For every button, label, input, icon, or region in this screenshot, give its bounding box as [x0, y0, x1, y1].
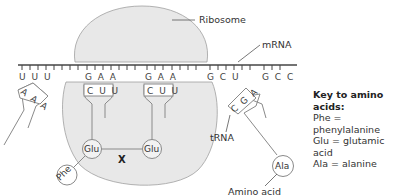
key-entry: Glu = glutamic acid	[313, 135, 407, 158]
mrna-codon: G A A	[85, 72, 118, 82]
ribosome-large-subunit	[74, 6, 207, 62]
mrna-codon: G C C	[262, 72, 295, 82]
trna-anticodon: C U U	[87, 86, 120, 96]
trna-pointer-line	[226, 115, 230, 132]
key-entry: Phe = phenylalanine	[313, 112, 407, 135]
key-entry: Ala = alanine	[313, 158, 407, 170]
amino-acid-label: Ala	[275, 161, 289, 171]
amino-acid-label: Glu	[144, 144, 159, 154]
trna-anticodon: C U U	[147, 86, 180, 96]
mrna-label: mRNA	[262, 39, 292, 50]
amino-acid-label: Glu	[84, 144, 99, 154]
bond-marker-x: X	[118, 154, 126, 165]
amino-acid-label-caption: Amino acid	[228, 186, 281, 195]
mrna-pointer-line	[238, 45, 260, 62]
ribosome-label: Ribosome	[199, 14, 246, 25]
mrna-ticks	[22, 65, 280, 70]
mrna-codon: U U U	[19, 72, 52, 82]
key-title: Key to amino acids:	[313, 89, 407, 112]
amino-acid-key: Key to amino acids: Phe = phenylalanine …	[313, 89, 407, 170]
mrna-codon: G A A	[145, 72, 178, 82]
trna-label: tRNA	[210, 132, 234, 143]
amino-acid-pointer-line	[265, 174, 277, 186]
mrna-codon: G C U	[207, 72, 240, 82]
